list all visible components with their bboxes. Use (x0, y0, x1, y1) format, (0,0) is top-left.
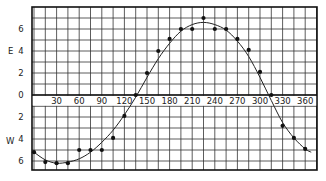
x-tick-label: 180 (161, 96, 177, 106)
x-tick-label: 240 (207, 96, 223, 106)
x-tick-label: 270 (229, 96, 245, 106)
data-point (66, 161, 70, 165)
data-point (281, 124, 285, 128)
data-point (134, 93, 138, 97)
data-point (213, 27, 217, 31)
y-tick-label-west: 4 (18, 134, 23, 144)
data-point (258, 70, 262, 74)
data-point (201, 16, 205, 20)
data-point (190, 27, 194, 31)
data-point (122, 114, 126, 118)
y-label-west: W (6, 136, 15, 146)
x-tick-label: 150 (139, 96, 155, 106)
data-point (145, 71, 149, 75)
data-point (77, 148, 81, 152)
y-tick-label-west: 2 (18, 112, 23, 122)
x-tick-label: 300 (252, 96, 268, 106)
x-tick-label: 360 (297, 96, 313, 106)
chart: 306090120150180210240270300330360 642024… (0, 0, 326, 181)
data-point (111, 136, 115, 140)
y-tick-label-east: 2 (18, 68, 23, 78)
data-point (88, 148, 92, 152)
data-point (303, 147, 307, 151)
y-tick-label-east: 4 (18, 46, 23, 56)
plot-frame (32, 7, 317, 170)
x-tick-label: 30 (51, 96, 62, 106)
data-point (32, 150, 36, 154)
x-tick-label: 210 (184, 96, 200, 106)
grid-lines (32, 7, 317, 170)
y-tick-label-east: 0 (18, 90, 23, 100)
x-tick-label: 60 (74, 96, 85, 106)
data-point (224, 27, 228, 31)
y-label-east: E (8, 46, 13, 56)
data-point (179, 27, 183, 31)
y-tick-label-west: 6 (18, 156, 23, 166)
data-point (168, 37, 172, 41)
data-point (292, 136, 296, 140)
x-tick-label: 330 (274, 96, 290, 106)
data-point (269, 93, 273, 97)
data-point (43, 160, 47, 164)
data-point (235, 37, 239, 41)
y-tick-label-east: 6 (18, 24, 23, 34)
data-point (156, 49, 160, 53)
data-point (100, 148, 104, 152)
data-point (55, 161, 59, 165)
fitted-curve (34, 22, 311, 163)
x-tick-label: 90 (96, 96, 107, 106)
data-point (247, 48, 251, 52)
x-tick-label: 120 (116, 96, 132, 106)
y-axis-ticks: 6420246 (18, 24, 23, 166)
